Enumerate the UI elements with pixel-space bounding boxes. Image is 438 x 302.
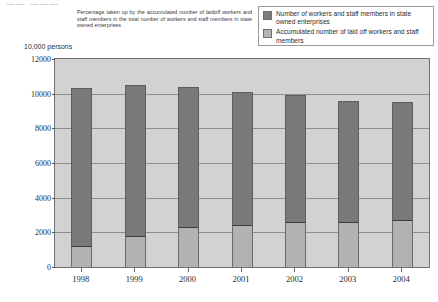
- x-axis-ticks: [54, 268, 430, 273]
- bar-group: [178, 59, 199, 267]
- bar-group: [285, 59, 306, 267]
- x-axis-tick-mark: [188, 268, 189, 272]
- bar-segment-laidoff: [338, 222, 359, 267]
- x-axis-tick-label: 2002: [286, 274, 303, 284]
- light-gray-swatch-icon: [263, 29, 272, 38]
- y-axis-tick-label: 2000: [35, 228, 51, 237]
- clipped-header-remnant: —— ———: [6, 0, 126, 7]
- x-axis-tick-mark: [241, 268, 242, 272]
- y-axis-tick-label: 0: [47, 263, 51, 272]
- dark-gray-swatch-icon: [263, 11, 272, 20]
- x-axis-labels: 1998199920002001200220032004: [54, 274, 430, 288]
- x-axis-tick-mark: [294, 268, 295, 272]
- legend-item-laidoff: Accumulated number of laid off workers a…: [263, 28, 430, 44]
- bar-segment-laidoff: [178, 227, 199, 267]
- y-axis-unit-label: 10,000 persons: [24, 43, 72, 50]
- y-axis-tick-label: 6000: [35, 159, 51, 168]
- bar-group: [392, 59, 413, 267]
- legend-label-laidoff: Accumulated number of laid off workers a…: [276, 28, 430, 44]
- x-axis-tick-mark: [81, 268, 82, 272]
- bar-series-container: [55, 59, 429, 267]
- bar-segment-total: [71, 88, 92, 267]
- y-axis-tick-label: 10000: [31, 89, 51, 98]
- bar-group: [338, 59, 359, 267]
- legend-label-total: Number of workers and staff members in s…: [276, 10, 430, 26]
- y-axis-tick-label: 8000: [35, 124, 51, 133]
- bar-group: [125, 59, 146, 267]
- x-axis-tick-label: 1999: [126, 274, 143, 284]
- x-axis-tick-label: 2000: [179, 274, 196, 284]
- x-axis-tick-mark: [134, 268, 135, 272]
- chart-legend: Number of workers and staff members in s…: [258, 6, 434, 46]
- chart-note: Percentage taken up by the accumulated n…: [77, 9, 252, 29]
- y-axis-tick-label: 12000: [31, 55, 51, 64]
- legend-item-total: Number of workers and staff members in s…: [263, 10, 430, 26]
- x-axis-tick-label: 2003: [339, 274, 356, 284]
- bar-segment-laidoff: [392, 220, 413, 267]
- bar-segment-laidoff: [285, 222, 306, 267]
- x-axis-tick-label: 2004: [393, 274, 410, 284]
- bar-segment-laidoff: [232, 225, 253, 267]
- y-axis-tick-label: 4000: [35, 193, 51, 202]
- bar-chart: —— ——— Percentage taken up by the accumu…: [0, 0, 438, 302]
- x-axis-tick-mark: [348, 268, 349, 272]
- bar-group: [232, 59, 253, 267]
- x-axis-tick-mark: [401, 268, 402, 272]
- bar-segment-laidoff: [71, 246, 92, 267]
- plot-area: 020004000600080001000012000: [54, 58, 430, 268]
- x-axis-tick-label: 1998: [72, 274, 89, 284]
- bar-segment-laidoff: [125, 236, 146, 267]
- x-axis-tick-label: 2001: [233, 274, 250, 284]
- bar-group: [71, 59, 92, 267]
